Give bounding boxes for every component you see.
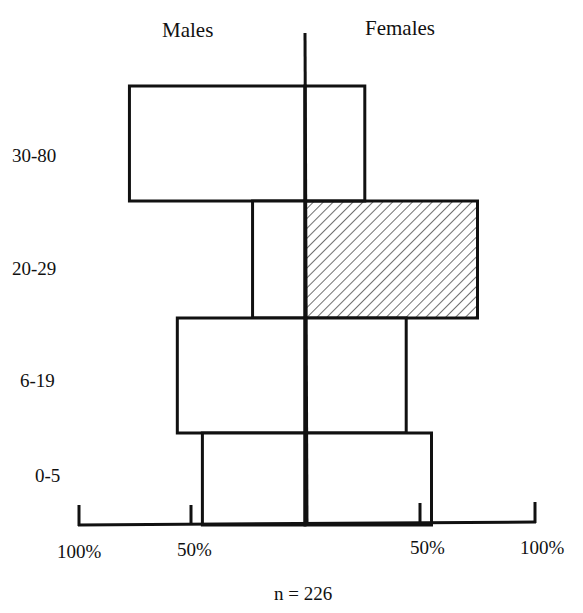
female-bar-30-80 xyxy=(305,86,365,201)
female-bar-6-19 xyxy=(305,318,406,433)
pyramid-chart xyxy=(0,0,583,613)
x-axis-line xyxy=(78,522,536,525)
tick-label-left-100: 100% xyxy=(57,542,101,561)
males-title: Males xyxy=(162,20,213,41)
male-bar-30-80 xyxy=(129,86,305,201)
tick-label-right-100: 100% xyxy=(520,538,564,557)
bars-group xyxy=(129,86,477,525)
female-bar-20-29 xyxy=(305,201,478,318)
tick-label-right-50: 50% xyxy=(410,538,445,557)
category-label-0-5: 0-5 xyxy=(35,466,60,485)
tick-label-left-50: 50% xyxy=(177,540,212,559)
category-label-6-19: 6-19 xyxy=(20,371,55,390)
category-label-30-80: 30-80 xyxy=(12,146,56,165)
category-label-20-29: 20-29 xyxy=(12,259,56,278)
male-bar-0-5 xyxy=(202,433,305,525)
male-bar-6-19 xyxy=(177,318,305,433)
females-title: Females xyxy=(365,18,435,39)
center-axis xyxy=(305,33,307,525)
sample-size-annotation: n = 226 xyxy=(274,584,332,603)
female-bar-0-5 xyxy=(305,433,432,525)
male-bar-20-29 xyxy=(253,201,305,318)
